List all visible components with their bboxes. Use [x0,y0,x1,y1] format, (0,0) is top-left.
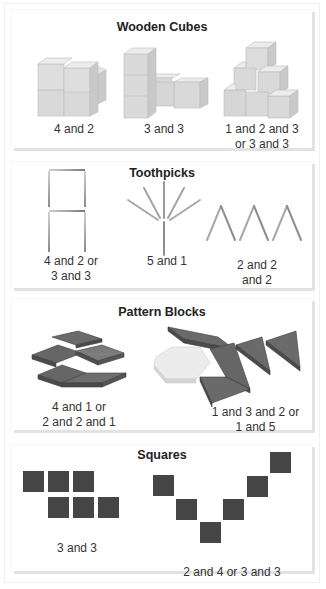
cubes-staircase-illustration [222,42,304,120]
caption-toothpicks-1: 4 and 2 or 3 and 3 [26,254,116,284]
pattern-blocks-rhombi-illustration [30,329,130,394]
caption-toothpicks-2: 5 and 1 [127,254,207,269]
caption-squares-2: 2 and 4 or 3 and 3 [167,565,297,580]
panel-pattern-blocks: Pattern Blocks [11,298,312,430]
cubes-3-and-3-illustration [118,44,213,120]
caption-squares-1: 3 and 3 [42,541,112,556]
panel-title: Wooden Cubes [12,20,312,34]
cubes-4-and-2-illustration [34,50,114,120]
toothpicks-triangles-illustration [205,204,313,244]
panel-title: Pattern Blocks [12,305,312,319]
caption-cubes-2: 3 and 3 [124,122,204,137]
caption-toothpicks-3: 2 and 2 and 2 [212,258,302,288]
toothpicks-ladder-illustration [45,168,95,254]
squares-v-shape-illustration [153,452,293,547]
caption-cubes-1: 4 and 2 [34,122,114,137]
caption-pattern-blocks-2: 1 and 3 and 2 or 1 and 5 [198,405,313,435]
toothpicks-fan-illustration [126,182,206,256]
squares-3-and-3-illustration [23,471,123,519]
panel-toothpicks: Toothpicks [11,161,312,288]
pattern-blocks-hexagon-illustration [152,327,302,409]
panel-squares: Squares 3 and 3 2 and 4 or 3 and 3 [11,444,312,571]
caption-cubes-3: 1 and 2 and 3 or 3 and 3 [212,122,312,152]
panel-wooden-cubes: Wooden Cubes [11,9,312,148]
caption-pattern-blocks-1: 4 and 1 or 2 and 2 and 1 [24,400,134,430]
